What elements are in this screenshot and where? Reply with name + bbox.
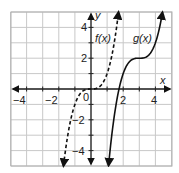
graph: y x f(x) g(x) 0 −4 −2 2 4 4 2 −2 −4 xyxy=(0,0,179,173)
y-tick-label: 2 xyxy=(81,52,87,64)
f-label: f(x) xyxy=(95,32,111,44)
x-axis-label: x xyxy=(159,74,166,86)
x-tick-label: −4 xyxy=(13,94,26,106)
y-tick-label: −4 xyxy=(72,145,85,157)
y-tick-label: 4 xyxy=(81,21,87,33)
g-label: g(x) xyxy=(133,32,152,44)
origin-label: 0 xyxy=(83,91,89,103)
y-axis-label: y xyxy=(94,9,102,21)
x-tick-label: 2 xyxy=(120,94,126,106)
x-tick-label: −2 xyxy=(45,94,58,106)
y-tick-label: −2 xyxy=(72,114,85,126)
x-tick-label: 4 xyxy=(151,94,157,106)
